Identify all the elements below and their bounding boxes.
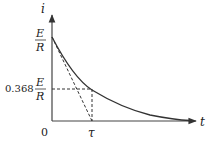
er2-numerator: E <box>35 76 44 89</box>
x-axis-label: t <box>200 115 205 129</box>
coef-label: 0.368 <box>5 83 34 94</box>
origin-label: 0 <box>41 126 48 139</box>
er-numerator: E <box>35 27 44 40</box>
tau-tick-label: τ <box>88 126 95 140</box>
er2-denominator: R <box>35 90 44 103</box>
decay-curve <box>52 37 190 121</box>
y-axis-label: i <box>41 2 45 16</box>
tangent-line <box>52 37 92 121</box>
er-denominator: R <box>35 41 44 54</box>
rl-decay-diagram: i t 0 τ E R 0.368 E R <box>0 0 214 143</box>
